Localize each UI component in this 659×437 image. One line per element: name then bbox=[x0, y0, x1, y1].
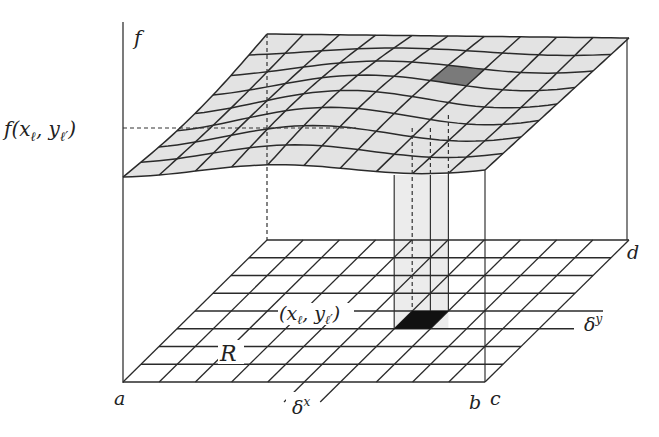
corner-label-c: c bbox=[490, 387, 501, 409]
domain-grid-R bbox=[123, 240, 629, 418]
delta-y-label: δy bbox=[584, 312, 602, 335]
f-axis-label: f bbox=[132, 26, 145, 50]
region-label: R bbox=[219, 341, 237, 366]
function-surface bbox=[123, 34, 629, 177]
column-fill bbox=[394, 175, 448, 329]
corner-label-d: d bbox=[627, 241, 639, 263]
corner-label-a: a bbox=[114, 387, 125, 409]
corner-label-b: b bbox=[469, 391, 481, 413]
f-value-label: f(xℓ, yℓ′) bbox=[2, 117, 76, 144]
riemann-sum-diagram: f f(xℓ, yℓ′) (xℓ, yℓ′) R a b c d δx δy bbox=[0, 0, 659, 437]
